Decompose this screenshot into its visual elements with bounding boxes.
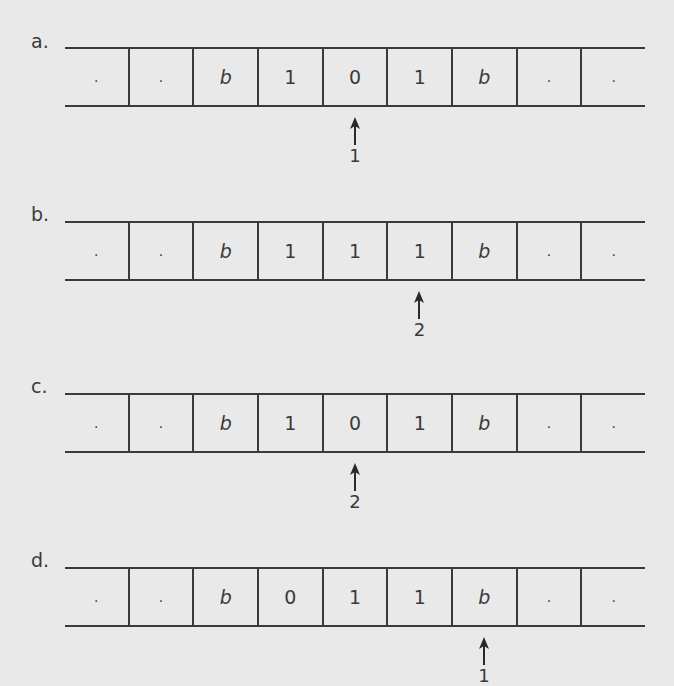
head-state-label: 2 bbox=[345, 493, 365, 511]
tape-cell: 1 bbox=[257, 223, 322, 279]
tape-cells: ..b011b.. bbox=[65, 567, 645, 627]
tape-label: b. bbox=[31, 203, 49, 225]
head-state-label: 1 bbox=[474, 667, 494, 685]
tape-cell: . bbox=[128, 223, 193, 279]
tape-head: 2 bbox=[409, 291, 429, 339]
tape-cell: b bbox=[192, 395, 257, 451]
tape-cell: b bbox=[192, 223, 257, 279]
tape-head: 1 bbox=[474, 637, 494, 685]
tape-cell: b bbox=[192, 569, 257, 625]
tape-cell: . bbox=[580, 395, 645, 451]
tape-cell: 0 bbox=[257, 569, 322, 625]
tape-cells: ..b111b.. bbox=[65, 221, 645, 281]
tape-cell: 1 bbox=[386, 395, 451, 451]
tape-cells: ..b101b.. bbox=[65, 393, 645, 453]
tape-cell: 1 bbox=[386, 569, 451, 625]
tape-cell: 1 bbox=[322, 569, 387, 625]
arrow-up-icon bbox=[413, 291, 425, 319]
tape-cell: 1 bbox=[322, 223, 387, 279]
tape-cell: . bbox=[65, 569, 128, 625]
tape-head: 2 bbox=[345, 463, 365, 511]
arrow-up-icon bbox=[349, 463, 361, 491]
tape-cell: . bbox=[580, 223, 645, 279]
tape-cell: 0 bbox=[322, 395, 387, 451]
tape-cell: . bbox=[580, 569, 645, 625]
arrow-up-icon bbox=[478, 637, 490, 665]
tape-cell: b bbox=[451, 223, 516, 279]
tape-label: c. bbox=[31, 375, 48, 397]
tape-cell: . bbox=[65, 395, 128, 451]
tape-cell: b bbox=[451, 569, 516, 625]
tape-cell: . bbox=[65, 223, 128, 279]
tape-cell: . bbox=[516, 223, 581, 279]
tape-cell: . bbox=[516, 569, 581, 625]
tape-cell: . bbox=[516, 395, 581, 451]
tape-cell: . bbox=[128, 395, 193, 451]
head-state-label: 2 bbox=[409, 321, 429, 339]
tape-cell: 1 bbox=[386, 223, 451, 279]
tape-d: d...b011b..1 bbox=[0, 0, 674, 170]
tape-cell: 1 bbox=[257, 395, 322, 451]
tape-cell: . bbox=[128, 569, 193, 625]
tape-label: d. bbox=[31, 549, 49, 571]
tape-cell: b bbox=[451, 395, 516, 451]
